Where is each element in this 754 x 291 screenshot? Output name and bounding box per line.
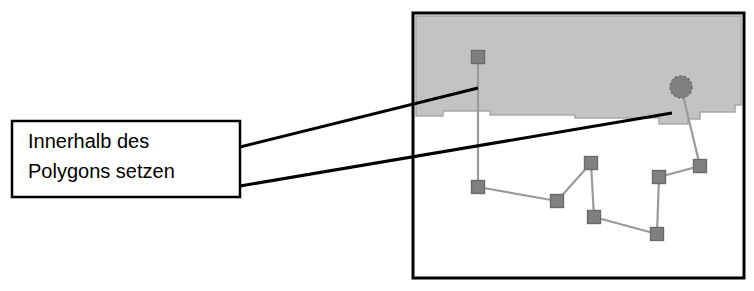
- callout-text-line1: Innerhalb des: [28, 130, 149, 152]
- node-right-low[interactable]: [651, 228, 664, 241]
- node-right-top[interactable]: [694, 160, 707, 173]
- node-circle-inside-polygon[interactable]: [670, 76, 692, 98]
- shaded-polygon-region: [416, 16, 741, 124]
- node-mid-top[interactable]: [585, 157, 598, 170]
- figure-root: Innerhalb des Polygons setzen: [0, 0, 754, 291]
- callout-text-line2: Polygons setzen: [28, 160, 175, 182]
- node-mid-low[interactable]: [588, 211, 601, 224]
- node-right-mid[interactable]: [653, 171, 666, 184]
- node-left-mid[interactable]: [551, 195, 564, 208]
- node-top-inside-polygon[interactable]: [472, 51, 485, 64]
- diagram-canvas: Innerhalb des Polygons setzen: [0, 0, 754, 291]
- polygon-callout-box[interactable]: Innerhalb des Polygons setzen: [12, 121, 240, 197]
- node-left[interactable]: [472, 181, 485, 194]
